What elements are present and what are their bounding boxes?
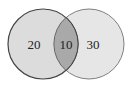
intersection-value: 10 bbox=[60, 37, 73, 52]
venn-diagram: 20 10 30 bbox=[0, 0, 132, 91]
right-only-value: 30 bbox=[87, 37, 100, 52]
left-only-value: 20 bbox=[28, 37, 41, 52]
